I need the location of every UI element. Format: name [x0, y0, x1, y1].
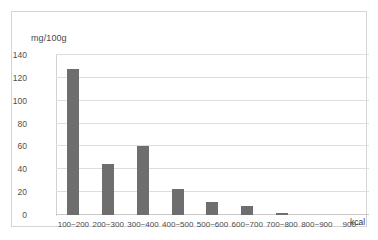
chart-container: mg/100g 020406080100120140 100~200200~30… — [11, 11, 367, 227]
bar-slot — [56, 55, 91, 215]
plot-area — [56, 55, 369, 215]
y-axis-tick-label: 40 — [0, 164, 27, 174]
y-axis-unit-label: mg/100g — [31, 33, 67, 43]
bar[interactable] — [276, 213, 288, 215]
x-axis-unit-label: kcal — [350, 217, 365, 227]
bar-slot — [334, 55, 369, 215]
bar[interactable] — [206, 202, 218, 215]
x-axis-tick-label: 700~800 — [266, 220, 297, 229]
bar-slot — [126, 55, 161, 215]
bar-slot — [195, 55, 230, 215]
y-axis-tick-label: 80 — [0, 119, 27, 129]
bar[interactable] — [172, 189, 184, 215]
y-axis-tick-label: 20 — [0, 187, 27, 197]
y-axis-tick-label: 60 — [0, 141, 27, 151]
bar-slot — [160, 55, 195, 215]
bar-series — [56, 55, 369, 215]
y-axis-tick-label: 100 — [0, 96, 27, 106]
bar[interactable] — [102, 164, 114, 215]
bar[interactable] — [137, 146, 149, 215]
bar[interactable] — [241, 206, 253, 215]
y-axis-tick-label: 120 — [0, 73, 27, 83]
x-axis-tick-label: 300~400 — [127, 220, 158, 229]
y-axis-tick-label: 140 — [0, 50, 27, 60]
x-axis-tick-label: 200~300 — [92, 220, 123, 229]
x-axis-tick-label: 800~900 — [301, 220, 332, 229]
x-axis-tick-label: 400~500 — [162, 220, 193, 229]
x-axis-tick-label: 500~600 — [197, 220, 228, 229]
y-axis-tick-label: 0 — [0, 210, 27, 220]
bar-slot — [265, 55, 300, 215]
x-axis-tick-label: 600~700 — [232, 220, 263, 229]
x-axis-tick-label: 100~200 — [58, 220, 89, 229]
bar-slot — [230, 55, 265, 215]
bar-slot — [91, 55, 126, 215]
bar-slot — [299, 55, 334, 215]
bar[interactable] — [67, 69, 79, 215]
